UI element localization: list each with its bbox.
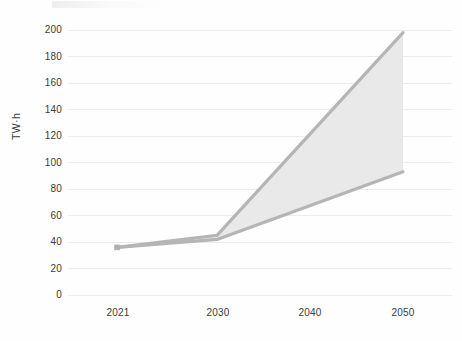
y-tick-label: 20	[22, 264, 62, 274]
chart-container: TW·h 200 180 160 140 120 100 80 60	[0, 0, 462, 341]
y-tick-label: 180	[22, 52, 62, 62]
x-tick-label: 2040	[280, 308, 340, 318]
y-tick-label: 160	[22, 78, 62, 88]
y-tick-label: 80	[22, 184, 62, 194]
plot-area	[0, 0, 462, 341]
y-tick-label: 60	[22, 211, 62, 221]
y-tick-label: 200	[22, 25, 62, 35]
y-tick-label: 0	[22, 290, 62, 300]
data-point-marker-2021	[114, 245, 120, 251]
y-tick-label: 40	[22, 237, 62, 247]
y-tick-label: 100	[22, 158, 62, 168]
x-tick-label: 2030	[188, 308, 248, 318]
y-tick-label: 120	[22, 131, 62, 141]
x-tick-label: 2021	[88, 308, 148, 318]
y-tick-label: 140	[22, 105, 62, 115]
x-tick-label: 2050	[373, 308, 433, 318]
